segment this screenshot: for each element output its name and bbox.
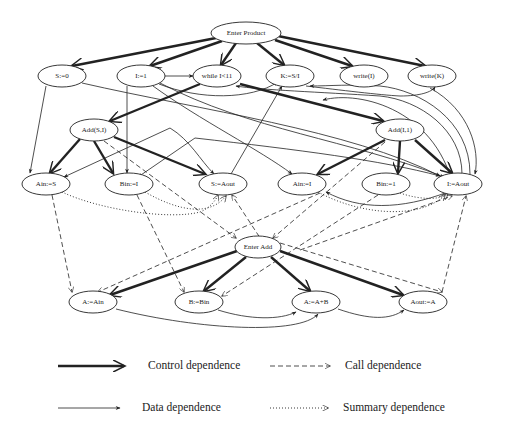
control-dependence-edge [257,43,284,65]
node-bini: Bin:=I [105,173,153,195]
call-dependence-edge [52,195,72,292]
call-dependence-edge [442,196,466,292]
control-dependence-edge [114,137,205,174]
node-label: write(K) [420,72,445,80]
legend-label-summary: Summary dependence [343,401,445,413]
node-aain: A:=Ain [69,291,117,313]
node-label: Aout:=A [411,298,436,306]
node-aini: Ain:=I [278,173,326,195]
node-aouta: Aout:=A [399,291,447,313]
node-label: K:=S/I [280,72,300,80]
node-bbin: B:=Bin [175,291,223,313]
control-dependence-edge [271,257,310,291]
node-ains: Ain:=S [22,173,70,195]
node-label: Add(I,1) [388,126,413,134]
node-label: write(I) [353,72,375,80]
data-dependence-edge [338,309,404,317]
control-dependence-edge [110,251,237,295]
node-iaout: I:=Aout [434,173,482,195]
node-k: K:=S/I [266,65,314,87]
node-label: Ain:=I [293,180,312,188]
node-label: A:=A+B [304,298,329,306]
node-saout: S:=Aout [199,173,247,195]
node-label: Enter Product [227,29,266,37]
nodes-layer: Enter ProductS:=0I:=1while I<11K:=S/Iwri… [22,22,482,313]
node-label: Enter Add [244,243,273,251]
node-writei: write(I) [340,65,388,87]
data-dependence-edge [116,309,318,327]
call-dependence-edge [98,193,320,292]
node-label: S:=0 [55,72,69,80]
node-s0: S:=0 [38,65,86,87]
dependence-graph: Enter ProductS:=0I:=1while I<11K:=S/Iwri… [0,0,505,434]
control-dependence-edge [278,36,425,66]
data-dependence-edge [138,138,195,177]
node-addsi: Add(S,I) [70,119,118,141]
node-label: Ain:=S [36,180,56,188]
call-dependence-edge [300,196,452,250]
data-dependence-edge [236,86,462,174]
control-dependence-edge [72,38,216,66]
data-dependence-edge [231,86,282,174]
node-label: S:=Aout [211,180,235,188]
node-label: I:=Aout [447,180,469,188]
legend-label-control: Control dependence [148,359,240,371]
control-dependence-edge [221,43,236,65]
node-label: Bin:=1 [376,180,396,188]
node-label: Add(S,I) [82,126,107,134]
legend-label-data: Data dependence [142,401,221,413]
node-label: A:=Ain [82,298,104,306]
data-dependence-edge [195,138,440,176]
node-addi1: Add(I,1) [376,119,424,141]
control-dependence-edge [204,257,246,291]
data-dependence-edge [306,86,435,96]
node-enter-add: Enter Add [235,236,281,258]
data-dependence-edge [218,310,296,318]
node-writek: write(K) [408,65,456,87]
control-dependence-edge [110,84,200,121]
node-while: while I<11 [193,65,241,87]
figure-caption-clipped [40,426,490,434]
control-dependence-edge [280,251,403,295]
node-bin1: Bin:=1 [362,173,410,195]
control-dependence-edge [50,139,80,173]
control-dependence-edge [398,141,400,173]
control-dependence-edge [94,141,113,173]
node-label: Bin:=I [120,180,139,188]
node-label: while I<11 [202,72,233,80]
data-dependence-edge [30,86,46,173]
node-enter-product: Enter Product [211,22,281,44]
node-i1: I:=1 [117,65,165,87]
control-dependence-edge [318,140,385,174]
legend-label-call: Call dependence [345,359,421,371]
node-label: I:=1 [135,72,147,80]
summary-dependence-edge [400,193,448,198]
node-label: B:=Bin [189,298,210,306]
summary-dependence-edge [62,192,218,215]
node-aab: A:=A+B [292,291,340,313]
